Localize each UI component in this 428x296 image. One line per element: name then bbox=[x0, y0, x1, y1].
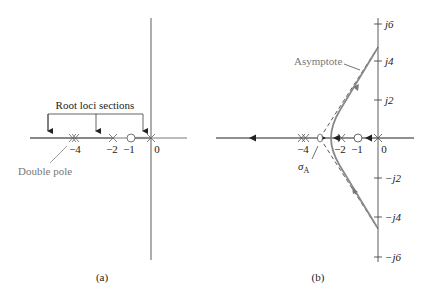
arrow-real-to-zero bbox=[365, 135, 372, 142]
tick-label-m1-a: −1 bbox=[123, 143, 135, 155]
asymptote-label: Asymptote bbox=[294, 55, 342, 67]
zero-m1-b bbox=[354, 134, 362, 142]
caption-b: (b) bbox=[312, 271, 325, 284]
tick-label-m4-a: −4 bbox=[69, 143, 81, 155]
asymptote-leader bbox=[344, 64, 360, 70]
root-loci-sections-label: Root loci sections bbox=[56, 99, 135, 111]
panel-a: Root loci sections −4 −2 −1 0 Double pol… bbox=[18, 18, 187, 284]
tick-label-j6: j6 bbox=[383, 18, 394, 30]
tick-label-0-a: 0 bbox=[154, 143, 160, 155]
caption-a: (a) bbox=[96, 271, 109, 284]
tick-label-mj6: −j6 bbox=[385, 251, 401, 263]
tick-label-0-b: 0 bbox=[381, 143, 387, 155]
sigma-a-label: σA bbox=[298, 160, 309, 175]
panel-b: j6 j4 j2 −j2 −j4 −j6 −4 bbox=[216, 18, 414, 284]
tick-label-m1-b: −1 bbox=[351, 143, 363, 155]
sigma-leader bbox=[312, 146, 318, 159]
tick-label-mj2: −j2 bbox=[385, 172, 401, 184]
double-pole-label: Double pole bbox=[18, 165, 72, 177]
tick-label-j4: j4 bbox=[383, 55, 394, 67]
centroid-marker bbox=[318, 134, 323, 142]
tick-label-j2: j2 bbox=[383, 94, 394, 106]
tick-label-m4-b: −4 bbox=[297, 143, 309, 155]
tick-label-m2-b: −2 bbox=[334, 143, 346, 155]
bracket-line bbox=[48, 114, 143, 131]
arrow-real-left bbox=[249, 135, 256, 142]
double-pole-leader bbox=[50, 146, 67, 163]
tick-label-m2-a: −2 bbox=[106, 143, 118, 155]
tick-label-mj4: −j4 bbox=[385, 211, 401, 223]
root-locus-figure: Root loci sections −4 −2 −1 0 Double pol… bbox=[0, 0, 428, 296]
zero-m1-a bbox=[127, 134, 135, 142]
